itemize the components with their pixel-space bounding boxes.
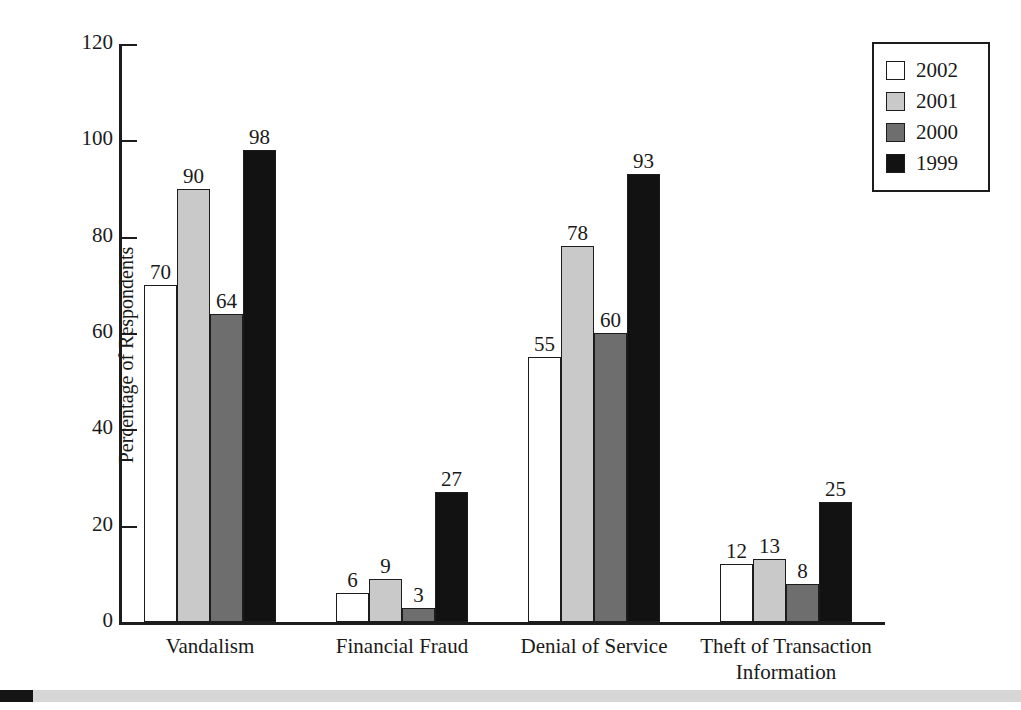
category-label-theft-line1: Theft of Transaction [696, 634, 876, 660]
y-tick-60: 60 [122, 333, 137, 335]
legend-item-1999[interactable]: 1999 [886, 148, 978, 179]
category-label-theft-line2: Information [696, 660, 876, 686]
bar-label-theft-1999: 25 [825, 479, 846, 500]
bar-label-vandalism-2002: 70 [150, 262, 171, 283]
category-label-theft-of-transaction-information: Theft of Transaction Information [696, 634, 876, 685]
bar-label-vandalism-2001: 90 [183, 166, 204, 187]
bar-label-theft-2000: 8 [797, 561, 808, 582]
bar-group-vandalism: 70 90 64 98 [144, 44, 276, 622]
y-tick-100: 100 [122, 140, 137, 142]
legend: 2002 2001 2000 1999 [872, 42, 990, 192]
category-label-denial-of-service: Denial of Service [504, 634, 684, 660]
bar-financial-fraud-2002[interactable]: 6 [336, 593, 369, 622]
bar-label-theft-2002: 12 [726, 541, 747, 562]
bar-denial-of-service-1999[interactable]: 93 [627, 174, 660, 622]
bar-denial-of-service-2001[interactable]: 78 [561, 246, 594, 622]
footer-marker [0, 690, 33, 702]
bar-vandalism-2002[interactable]: 70 [144, 285, 177, 622]
y-tick-label-40: 40 [92, 414, 113, 440]
bar-denial-of-service-2002[interactable]: 55 [528, 357, 561, 622]
bar-chart-figure: Percentage of Respondents 0 20 40 60 80 … [0, 0, 1021, 710]
bar-vandalism-1999[interactable]: 98 [243, 150, 276, 622]
bar-vandalism-2001[interactable]: 90 [177, 189, 210, 623]
legend-item-2002[interactable]: 2002 [886, 55, 978, 86]
plot-area: 0 20 40 60 80 100 120 70 90 6 [119, 44, 885, 622]
bar-label-financial-fraud-1999: 27 [441, 469, 462, 490]
bar-label-denial-of-service-2001: 78 [567, 223, 588, 244]
y-tick-label-20: 20 [92, 511, 113, 537]
bar-vandalism-2000[interactable]: 64 [210, 314, 243, 622]
y-tick-label-120: 120 [82, 29, 114, 55]
legend-swatch-2001-icon [886, 92, 905, 111]
bar-label-financial-fraud-2001: 9 [380, 556, 391, 577]
legend-item-2000[interactable]: 2000 [886, 117, 978, 148]
y-tick-label-0: 0 [103, 607, 114, 633]
legend-label-1999: 1999 [916, 153, 958, 174]
bar-theft-1999[interactable]: 25 [819, 502, 852, 622]
bar-financial-fraud-1999[interactable]: 27 [435, 492, 468, 622]
bar-label-theft-2001: 13 [759, 536, 780, 557]
category-label-financial-fraud-line1: Financial Fraud [312, 634, 492, 660]
footer-band [0, 690, 1021, 702]
bar-theft-2000[interactable]: 8 [786, 584, 819, 623]
bar-group-financial-fraud: 6 9 3 27 [336, 44, 468, 622]
category-label-vandalism: Vandalism [120, 634, 300, 660]
y-tick-label-60: 60 [92, 318, 113, 344]
legend-label-2001: 2001 [916, 91, 958, 112]
bar-group-denial-of-service: 55 78 60 93 [528, 44, 660, 622]
legend-swatch-1999-icon [886, 154, 905, 173]
bar-financial-fraud-2001[interactable]: 9 [369, 579, 402, 622]
x-axis-line [119, 622, 885, 625]
bar-label-denial-of-service-1999: 93 [633, 151, 654, 172]
footer-rule [33, 690, 1021, 702]
category-label-financial-fraud: Financial Fraud [312, 634, 492, 660]
y-tick-0: 0 [122, 622, 137, 624]
y-tick-80: 80 [122, 237, 137, 239]
legend-swatch-2000-icon [886, 123, 905, 142]
bar-label-financial-fraud-2000: 3 [413, 585, 424, 606]
category-label-vandalism-line1: Vandalism [120, 634, 300, 660]
bar-label-financial-fraud-2002: 6 [347, 570, 358, 591]
bar-theft-2001[interactable]: 13 [753, 559, 786, 622]
bar-label-vandalism-2000: 64 [216, 291, 237, 312]
legend-swatch-2002-icon [886, 61, 905, 80]
y-tick-label-80: 80 [92, 222, 113, 248]
y-tick-label-100: 100 [82, 125, 114, 151]
bar-theft-2002[interactable]: 12 [720, 564, 753, 622]
y-tick-40: 40 [122, 429, 137, 431]
bar-group-theft-of-transaction-information: 12 13 8 25 [720, 44, 852, 622]
legend-label-2002: 2002 [916, 60, 958, 81]
category-label-denial-of-service-line1: Denial of Service [504, 634, 684, 660]
bar-denial-of-service-2000[interactable]: 60 [594, 333, 627, 622]
y-tick-20: 20 [122, 526, 137, 528]
legend-item-2001[interactable]: 2001 [886, 86, 978, 117]
bar-label-denial-of-service-2002: 55 [534, 334, 555, 355]
y-tick-120: 120 [122, 44, 137, 46]
bar-label-vandalism-1999: 98 [249, 127, 270, 148]
legend-label-2000: 2000 [916, 122, 958, 143]
bar-label-denial-of-service-2000: 60 [600, 310, 621, 331]
bar-financial-fraud-2000[interactable]: 3 [402, 608, 435, 623]
